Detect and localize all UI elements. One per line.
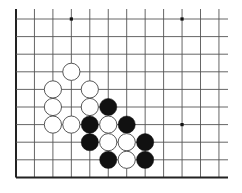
- white-stone[interactable]: [81, 81, 98, 98]
- black-stone[interactable]: [137, 151, 154, 168]
- white-stone[interactable]: [118, 134, 135, 151]
- black-stone[interactable]: [81, 116, 98, 133]
- stones: [44, 63, 153, 168]
- white-stone[interactable]: [44, 81, 61, 98]
- white-stone[interactable]: [81, 98, 98, 115]
- black-stone[interactable]: [118, 116, 135, 133]
- go-board[interactable]: [0, 0, 242, 193]
- white-stone[interactable]: [100, 134, 117, 151]
- white-stone[interactable]: [63, 63, 80, 80]
- black-stone[interactable]: [81, 134, 98, 151]
- white-stone[interactable]: [100, 116, 117, 133]
- star-point-icon: [180, 123, 183, 126]
- black-stone[interactable]: [100, 151, 117, 168]
- black-stone[interactable]: [100, 98, 117, 115]
- star-point-icon: [180, 17, 183, 20]
- white-stone[interactable]: [63, 116, 80, 133]
- white-stone[interactable]: [118, 151, 135, 168]
- white-stone[interactable]: [44, 98, 61, 115]
- black-stone[interactable]: [137, 134, 154, 151]
- star-point-icon: [70, 17, 73, 20]
- white-stone[interactable]: [44, 116, 61, 133]
